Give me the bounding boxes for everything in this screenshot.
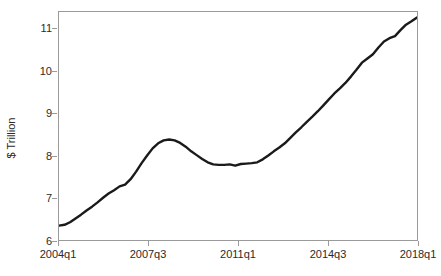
y-axis-tick-mark bbox=[52, 156, 57, 157]
y-axis-tick-label: 7 bbox=[32, 193, 52, 204]
x-axis-tick-mark bbox=[328, 241, 329, 246]
y-axis-tick-mark bbox=[52, 241, 57, 242]
y-axis-tick-mark bbox=[52, 198, 57, 199]
y-axis-tick-mark bbox=[52, 28, 57, 29]
x-axis-tick-label: 2014q3 bbox=[310, 249, 347, 260]
y-axis-title: $ Trillion bbox=[0, 0, 22, 276]
y-axis-tick-label: 10 bbox=[32, 65, 52, 76]
x-axis-tick-label: 2004q1 bbox=[40, 249, 77, 260]
x-axis-tick-label: 2007q3 bbox=[130, 249, 167, 260]
x-axis-tick-mark bbox=[148, 241, 149, 246]
y-axis-tick-label: 9 bbox=[32, 108, 52, 119]
x-axis-tick-label: 2018q1 bbox=[400, 249, 437, 260]
y-axis-tick-mark bbox=[52, 113, 57, 114]
x-axis-tick-mark bbox=[418, 241, 419, 246]
y-axis-tick-label: 8 bbox=[32, 150, 52, 161]
x-axis-tick-mark bbox=[238, 241, 239, 246]
chart-figure: $ Trillion 67891011 2004q12007q32011q120… bbox=[0, 0, 441, 276]
line-series bbox=[59, 12, 417, 240]
y-axis-tick-labels: 67891011 bbox=[30, 0, 52, 276]
plot-area bbox=[58, 11, 418, 241]
series-polyline bbox=[59, 17, 417, 225]
y-axis-tick-mark bbox=[52, 71, 57, 72]
x-axis-tick-label: 2011q1 bbox=[220, 249, 256, 260]
x-axis-tick-mark bbox=[58, 241, 59, 246]
y-axis-tick-label: 6 bbox=[32, 236, 52, 247]
y-axis-tick-label: 11 bbox=[32, 23, 52, 34]
